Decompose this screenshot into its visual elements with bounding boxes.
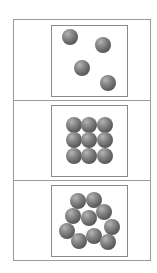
particle-sphere-icon (66, 132, 82, 148)
particle-sphere-icon (97, 117, 113, 133)
particle-sphere-icon (81, 148, 97, 164)
particle-sphere-icon (66, 148, 82, 164)
particle-sphere-icon (81, 117, 97, 133)
particle-sphere-icon (97, 148, 113, 164)
particle-sphere-icon (97, 132, 113, 148)
particle-sphere-icon (62, 29, 78, 45)
particle-sphere-icon (81, 210, 97, 226)
particle-sphere-icon (100, 75, 116, 91)
particle-sphere-icon (65, 208, 81, 224)
particle-sphere-icon (96, 204, 112, 220)
particle-sphere-icon (95, 37, 111, 53)
particle-sphere-icon (81, 132, 97, 148)
particle-sphere-icon (71, 233, 87, 249)
particle-sphere-icon (70, 193, 86, 209)
particle-sphere-icon (100, 234, 116, 250)
particle-sphere-icon (66, 117, 82, 133)
particle-sphere-icon (104, 219, 120, 235)
row-separator-1 (13, 100, 151, 101)
particle-sphere-icon (74, 60, 90, 76)
row-separator-2 (13, 180, 151, 181)
